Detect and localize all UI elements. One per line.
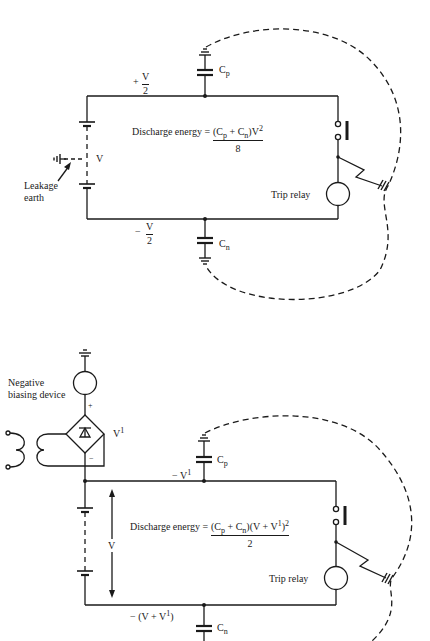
trip-relay-label: Trip relay [269, 573, 308, 584]
capacitor-cn-icon [197, 217, 213, 264]
cn-label: Cn [219, 238, 230, 250]
battery-voltage-label: V [108, 540, 115, 551]
biasing-earth-icon [79, 350, 91, 371]
capacitor-cn-icon [196, 603, 212, 641]
positive-rail-label: + V 2 [142, 72, 149, 96]
leakage-earth-label: Leakage earth [24, 180, 58, 204]
discharge-energy-equation: Discharge energy = (Cp + Cn)V2 8 [132, 126, 263, 154]
equation-denominator: 2 [248, 538, 253, 549]
cp-label: Cp [217, 454, 228, 466]
negative-rail-label: − V 2 [146, 222, 153, 246]
top-rail-voltage-label: − V1 [172, 470, 191, 482]
cp-label: Cp [219, 64, 230, 76]
battery-icon [77, 481, 93, 605]
negative-biasing-device-label: Negative biasing device [8, 377, 65, 401]
fault-path-zigzag-icon [336, 542, 393, 584]
capacitor-cp-icon [197, 49, 213, 98]
trip-switch-icon [333, 481, 345, 544]
minus-terminal-label: − [89, 453, 94, 464]
trip-relay-coil-icon [325, 542, 348, 605]
plus-terminal-label: + [88, 400, 93, 411]
battery-voltage-label: V [96, 153, 103, 164]
negative-biasing-device-icon [74, 372, 97, 395]
bridge-rectifier-icon [66, 415, 104, 453]
equation-numerator: (Cp + Cn)V2 [213, 126, 263, 137]
bottom-rail-voltage-label: − (V + V1) [130, 611, 174, 623]
bottom-circuit [6, 350, 412, 641]
capacitive-return-path [206, 29, 401, 300]
battery-icon [79, 96, 95, 219]
equation-numerator: (Cp + Cn)(V + V1)2 [211, 521, 289, 532]
discharge-energy-equation: Discharge energy = (Cp + Cn)(V + V1)2 2 [130, 521, 289, 549]
trip-relay-coil-icon [327, 157, 350, 219]
cn-label: Cn [217, 622, 228, 634]
equation-denominator: 8 [235, 143, 240, 154]
capacitor-cp-icon [196, 435, 212, 483]
leakage-earth-icon [54, 154, 84, 164]
leakage-arrow-icon [58, 162, 71, 181]
trip-switch-icon [335, 96, 347, 159]
v1-label: V1 [113, 428, 124, 440]
trip-relay-label: Trip relay [271, 189, 310, 200]
